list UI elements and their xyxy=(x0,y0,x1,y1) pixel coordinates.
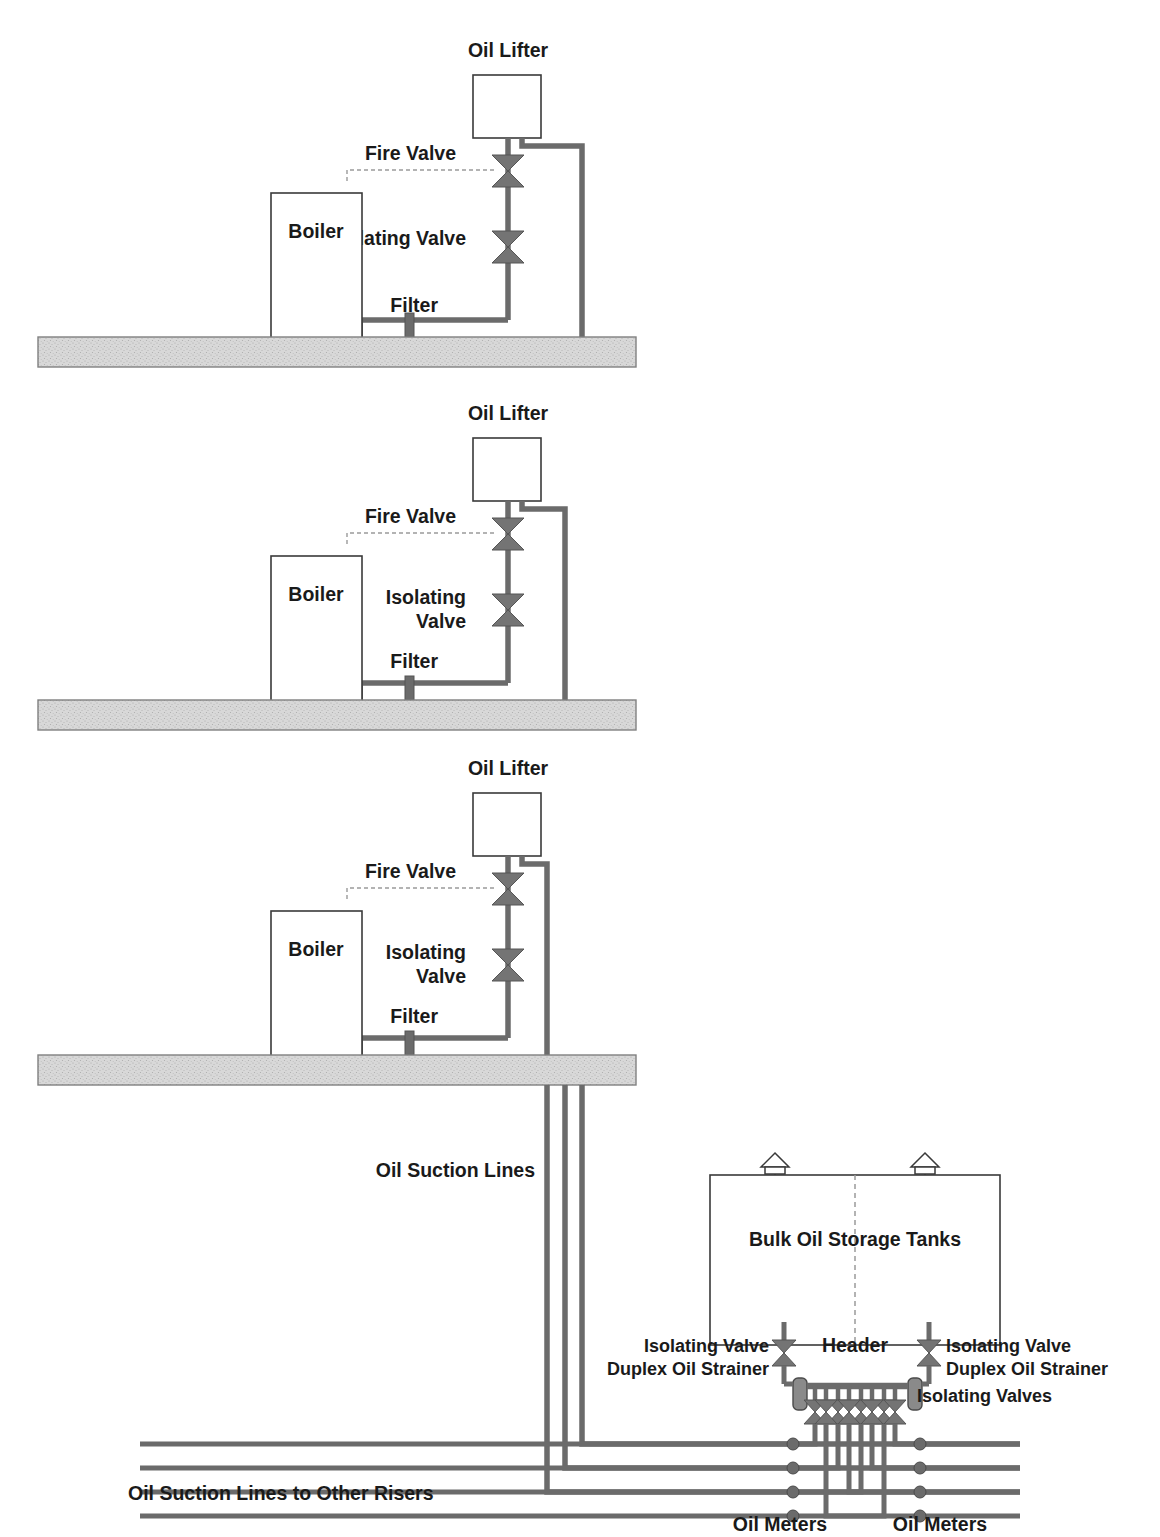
boiler-box-2 xyxy=(271,556,362,704)
isolating-valve-label-3-line1: Isolating xyxy=(386,941,466,963)
oil-meter-left-2 xyxy=(787,1462,799,1474)
header-label: Header xyxy=(822,1334,889,1356)
boiler-box-1 xyxy=(271,193,362,341)
floor-slab-3 xyxy=(38,1055,636,1085)
right-isolating-valve-label: Isolating Valve xyxy=(946,1336,1071,1356)
fire-valve-label-1: Fire Valve xyxy=(365,142,456,164)
filter-element-1 xyxy=(405,313,414,337)
oil-meters-label-right: Oil Meters xyxy=(893,1513,987,1535)
oil-suction-lines-label: Oil Suction Lines xyxy=(376,1159,535,1181)
oil-lifter-box-1 xyxy=(473,75,541,138)
oil-meter-left-3 xyxy=(787,1486,799,1498)
boiler-box-3 xyxy=(271,911,362,1059)
oil-lifter-label-2: Oil Lifter xyxy=(468,402,549,424)
isolating-valve-label-2-line2: Valve xyxy=(416,610,466,632)
oil-lifter-label-1: Oil Lifter xyxy=(468,39,549,61)
filter-label-3: Filter xyxy=(390,1005,438,1027)
fire-valve-label-3: Fire Valve xyxy=(365,860,456,882)
oil-meters-label-left: Oil Meters xyxy=(733,1513,827,1535)
floor-slab-2 xyxy=(38,700,636,730)
isolating-valve-label-2-line1: Isolating xyxy=(386,586,466,608)
oil-meter-right-1 xyxy=(914,1438,926,1450)
boiler-label-3: Boiler xyxy=(288,938,344,960)
right-duplex-strainer-label: Duplex Oil Strainer xyxy=(946,1359,1108,1379)
schematic-canvas: Oil Lifter Fire Valve Isolating Valve Bo… xyxy=(0,0,1160,1537)
oil-lifter-box-2 xyxy=(473,438,541,501)
oil-meter-right-2 xyxy=(914,1462,926,1474)
bulk-oil-storage-tanks-label: Bulk Oil Storage Tanks xyxy=(749,1228,961,1250)
boiler-label-2: Boiler xyxy=(288,583,344,605)
oil-lifter-box-3 xyxy=(473,793,541,856)
filter-element-2 xyxy=(405,676,414,700)
isolating-valves-label: Isolating Valves xyxy=(917,1386,1052,1406)
oil-lifter-label-3: Oil Lifter xyxy=(468,757,549,779)
duplex-oil-strainer-left xyxy=(793,1378,807,1410)
oil-meter-right-3 xyxy=(914,1486,926,1498)
filter-element-3 xyxy=(405,1031,414,1055)
isolating-valve-label-3-line2: Valve xyxy=(416,965,466,987)
oil-suction-lines-other-risers-label: Oil Suction Lines to Other Risers xyxy=(128,1482,434,1504)
floor-slab-1 xyxy=(38,337,636,367)
left-isolating-valve-label: Isolating Valve xyxy=(644,1336,769,1356)
oil-meter-left-1 xyxy=(787,1438,799,1450)
boiler-label-1: Boiler xyxy=(288,220,344,242)
left-duplex-strainer-label: Duplex Oil Strainer xyxy=(607,1359,769,1379)
filter-label-2: Filter xyxy=(390,650,438,672)
oil-supply-schematic: Oil Lifter Fire Valve Isolating Valve Bo… xyxy=(0,0,1160,1537)
fire-valve-label-2: Fire Valve xyxy=(365,505,456,527)
